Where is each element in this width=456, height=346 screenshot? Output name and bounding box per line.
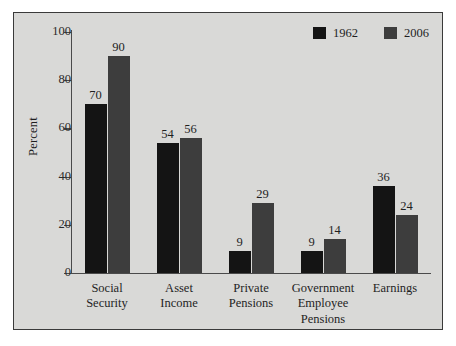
x-category-label-line: Employee: [268, 296, 378, 311]
legend-label: 2006: [404, 27, 429, 40]
bar-1962-4: [301, 251, 323, 273]
legend-item-2006: 2006: [384, 27, 429, 40]
bar-value-label: 36: [364, 171, 404, 184]
x-category-label-line: Pensions: [268, 312, 378, 327]
bar-2006-5: [396, 215, 418, 273]
bar-1962-3: [229, 251, 251, 273]
bar-value-label: 29: [243, 188, 283, 201]
bar-value-label: 24: [387, 200, 427, 213]
y-tick-label: 0: [27, 266, 71, 279]
plot-area: Percent 020406080100 709054569299143624 …: [14, 13, 442, 329]
x-category-label-line: Earnings: [340, 281, 450, 296]
legend-swatch-icon: [384, 27, 397, 39]
bar-value-label: 90: [99, 41, 139, 54]
y-tick-label: 80: [27, 73, 71, 86]
bar-2006-1: [108, 56, 130, 273]
bar-1962-1: [85, 104, 107, 273]
legend-swatch-icon: [313, 27, 326, 39]
bar-2006-2: [180, 138, 202, 273]
legend-label: 1962: [333, 27, 358, 40]
y-tick-label: 40: [27, 170, 71, 183]
chart-legend: 19622006: [313, 27, 429, 40]
bar-2006-4: [324, 239, 346, 273]
chart-panel: Percent 020406080100 709054569299143624 …: [13, 12, 443, 330]
y-axis-line: [71, 30, 72, 274]
bar-value-label: 56: [171, 123, 211, 136]
y-tick-label: 20: [27, 218, 71, 231]
figure-canvas: Percent 020406080100 709054569299143624 …: [0, 0, 456, 346]
x-category-label-5: Earnings: [340, 281, 450, 296]
bar-1962-2: [157, 143, 179, 273]
y-axis-title: Percent: [26, 97, 41, 177]
legend-item-1962: 1962: [313, 27, 358, 40]
bar-value-label: 14: [315, 224, 355, 237]
bar-2006-3: [252, 203, 274, 273]
y-tick-label: 60: [27, 121, 71, 134]
x-axis-line: [71, 273, 431, 274]
y-tick-label: 100: [27, 25, 71, 38]
